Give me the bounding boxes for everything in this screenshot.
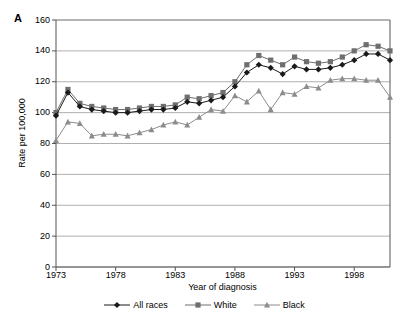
- square-marker: [316, 61, 321, 66]
- x-tick-label: 1973: [36, 271, 76, 280]
- diamond-marker: [351, 57, 357, 63]
- triangle-marker: [53, 137, 59, 143]
- legend-item-all-races[interactable]: All races: [104, 300, 168, 310]
- diamond-marker: [327, 65, 333, 71]
- square-marker: [352, 48, 357, 53]
- legend-item-label: All races: [131, 300, 168, 310]
- triangle-marker: [304, 83, 310, 89]
- y-tick-label: 120: [24, 77, 50, 86]
- figure-panel-a: A Rate per 100,000 Year of diagnosis 020…: [0, 0, 409, 334]
- square-marker: [304, 59, 309, 64]
- square-marker: [244, 62, 249, 67]
- diamond-marker: [387, 57, 393, 63]
- triangle-marker: [208, 106, 214, 112]
- triangle-marker: [196, 114, 202, 120]
- diamond-marker: [315, 66, 321, 72]
- y-tick-label: 160: [24, 16, 50, 25]
- square-marker: [195, 302, 200, 307]
- chart-legend: All racesWhiteBlack: [0, 300, 409, 310]
- diamond-marker: [303, 66, 309, 72]
- square-marker: [364, 42, 369, 47]
- triangle-marker: [280, 89, 286, 95]
- triangle-marker: [172, 119, 178, 125]
- legend-item-label: White: [212, 300, 237, 310]
- diamond-marker: [339, 62, 345, 68]
- y-tick-label: 40: [24, 201, 50, 210]
- square-marker: [340, 54, 345, 59]
- panel-label: A: [14, 12, 22, 24]
- x-tick-label: 1978: [96, 271, 136, 280]
- y-tick-label: 100: [24, 108, 50, 117]
- diamond-marker: [114, 302, 120, 308]
- y-tick-label: 140: [24, 46, 50, 55]
- diamond-marker: [375, 51, 381, 57]
- y-tick-label: 20: [24, 232, 50, 241]
- triangle-marker: [232, 92, 238, 98]
- square-marker: [292, 54, 297, 59]
- x-axis-label: Year of diagnosis: [55, 282, 390, 292]
- x-tick-label: 1998: [334, 271, 374, 280]
- y-tick-label: 80: [24, 139, 50, 148]
- triangle-marker: [254, 300, 280, 310]
- square-marker: [328, 59, 333, 64]
- legend-item-label: Black: [281, 300, 305, 310]
- diamond-marker: [104, 300, 130, 310]
- diamond-marker: [280, 71, 286, 77]
- square-marker: [256, 53, 261, 58]
- triangle-marker: [65, 119, 71, 125]
- y-tick-label: 60: [24, 170, 50, 179]
- square-marker: [387, 48, 392, 53]
- diamond-marker: [268, 65, 274, 71]
- legend-item-black[interactable]: Black: [254, 300, 305, 310]
- x-tick-label: 1993: [275, 271, 315, 280]
- square-marker: [268, 58, 273, 63]
- x-tick-label: 1988: [215, 271, 255, 280]
- triangle-marker: [256, 88, 262, 94]
- diamond-marker: [256, 62, 262, 68]
- square-marker: [185, 300, 211, 310]
- diamond-marker: [363, 51, 369, 57]
- legend-item-white[interactable]: White: [185, 300, 237, 310]
- diamond-marker: [291, 63, 297, 69]
- square-marker: [375, 44, 380, 49]
- square-marker: [280, 62, 285, 67]
- x-tick-label: 1983: [155, 271, 195, 280]
